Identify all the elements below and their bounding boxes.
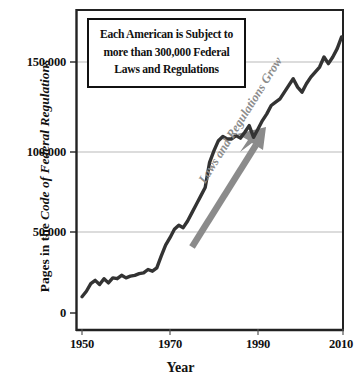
x-axis-title: Year — [0, 360, 361, 376]
x-tick-label-1950: 1950 — [57, 337, 107, 352]
y-tick-label-50000: 50,000 — [6, 225, 66, 240]
callout-line-1: Each American is Subject to — [93, 26, 240, 44]
y-axis-title-plain: Pages in the — [37, 220, 52, 292]
callout-line-3: Laws and Regulations — [93, 61, 240, 79]
x-tick-label-1970: 1970 — [145, 337, 195, 352]
y-tick-label-0: 0 — [6, 306, 66, 321]
x-tick-label-2010: 2010 — [316, 337, 361, 352]
y-tick-label-150000: 150,000 — [6, 55, 66, 70]
x-tick-label-1990: 1990 — [233, 337, 283, 352]
callout-textbox: Each American is Subject to more than 30… — [87, 18, 246, 88]
y-axis-title: Pages in the Code of Federal Regulations — [37, 11, 53, 341]
y-axis-title-italic: Code of Federal Regulations — [37, 60, 52, 220]
y-tick-label-100000: 100,000 — [6, 145, 66, 160]
chart-figure: 0 50,000 100,000 150,000 1950 1970 1990 … — [0, 0, 361, 383]
callout-line-2: more than 300,000 Federal — [93, 44, 240, 62]
